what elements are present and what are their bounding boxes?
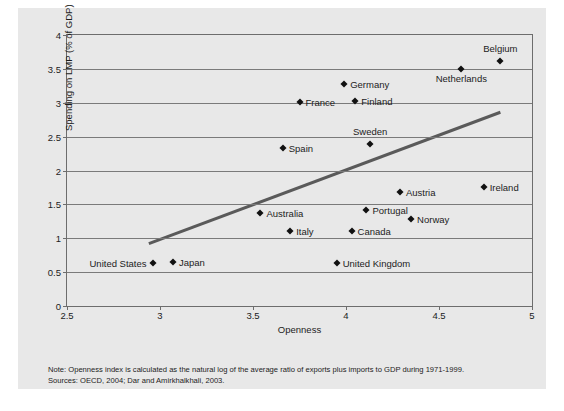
y-axis-tick — [63, 171, 67, 172]
y-axis-tick — [63, 272, 67, 273]
data-point-label: Belgium — [483, 43, 517, 54]
data-point-marker — [287, 228, 294, 235]
y-axis-tick-label: 1 — [56, 233, 61, 244]
data-point-label: Finland — [361, 96, 392, 107]
data-point-marker — [348, 227, 355, 234]
data-point-marker — [257, 209, 264, 216]
x-axis-tick-label: 4.5 — [432, 310, 445, 321]
data-point-marker — [363, 206, 370, 213]
x-axis-tick-label: 3 — [157, 310, 162, 321]
data-point-label: Canada — [358, 225, 391, 236]
y-axis-tick — [63, 238, 67, 239]
y-axis-tick-label: 4 — [56, 30, 61, 41]
data-point-marker — [296, 99, 303, 106]
y-axis-tick — [63, 204, 67, 205]
data-point-marker — [352, 98, 359, 105]
data-point-label: Japan — [179, 256, 205, 267]
data-point-marker — [169, 258, 176, 265]
data-point-marker — [408, 215, 415, 222]
chart-figure: Spending on LMP (% of GDP) Openness 00.5… — [0, 0, 564, 411]
data-point-marker — [149, 260, 156, 267]
data-point-label: Spain — [289, 143, 313, 154]
data-point-label: United States — [90, 258, 147, 269]
data-point-label: Australia — [266, 207, 303, 218]
gridline-horizontal — [67, 238, 532, 239]
data-point-label: Germany — [350, 78, 389, 89]
data-point-marker — [367, 141, 374, 148]
x-axis-tick-label: 3.5 — [246, 310, 259, 321]
gridline-horizontal — [67, 204, 532, 205]
note-line-1: Note: Openness index is calculated as th… — [48, 364, 548, 375]
data-point-label: Italy — [296, 226, 313, 237]
chart-notes: Note: Openness index is calculated as th… — [48, 364, 548, 386]
gridline-horizontal — [67, 171, 532, 172]
chart-panel: Spending on LMP (% of GDP) Openness 00.5… — [18, 8, 546, 389]
y-axis-title: Spending on LMP (% of GDP) — [63, 4, 74, 131]
y-axis-tick-label: 2.5 — [48, 131, 61, 142]
x-axis-tick-label: 2.5 — [60, 310, 73, 321]
data-point-label: France — [306, 97, 336, 108]
data-point-marker — [497, 57, 504, 64]
y-axis-tick — [63, 35, 67, 36]
y-axis-tick — [63, 137, 67, 138]
data-point-marker — [458, 65, 465, 72]
gridline-horizontal — [67, 137, 532, 138]
data-point-label: United Kingdom — [343, 258, 411, 269]
note-line-2: Sources: OECD, 2004; Dar and Amirkhalkha… — [48, 375, 548, 386]
data-point-label: Austria — [406, 186, 436, 197]
data-point-marker — [279, 145, 286, 152]
plot-area: Spending on LMP (% of GDP) Openness 00.5… — [66, 34, 533, 307]
x-axis-title: Openness — [67, 324, 532, 335]
data-point-marker — [396, 188, 403, 195]
y-axis-tick-label: 2 — [56, 165, 61, 176]
x-axis-tick-label: 5 — [529, 310, 534, 321]
data-point-label: Norway — [417, 213, 449, 224]
data-point-marker — [480, 183, 487, 190]
y-axis-tick — [63, 69, 67, 70]
y-axis-tick — [63, 103, 67, 104]
data-point-marker — [341, 80, 348, 87]
data-point-label: Sweden — [353, 126, 387, 137]
gridline-horizontal — [67, 272, 532, 273]
data-point-label: Netherlands — [436, 73, 487, 84]
y-axis-tick-label: 3.5 — [48, 63, 61, 74]
data-point-marker — [333, 260, 340, 267]
y-axis-tick-label: 3 — [56, 97, 61, 108]
data-point-label: Portugal — [372, 204, 407, 215]
data-point-label: Ireland — [490, 181, 519, 192]
y-axis-tick-label: 0.5 — [48, 267, 61, 278]
x-axis-tick-label: 4 — [343, 310, 348, 321]
y-axis-tick-label: 1.5 — [48, 199, 61, 210]
